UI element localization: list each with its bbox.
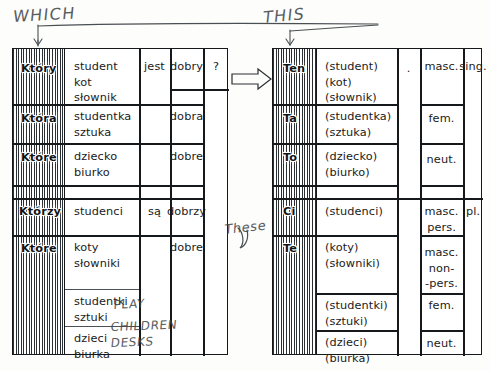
pronoun-te: Te — [282, 242, 298, 256]
worksheet-page: Który Która Które Którzy Które student k… — [0, 0, 490, 371]
row-rule-4 — [13, 198, 203, 200]
pronoun-ktora: Która — [20, 112, 58, 126]
noun-cell-6: (studentki) (sztuki) — [325, 298, 395, 329]
column-rule-gender-num — [463, 49, 465, 356]
gender-rule-5 — [420, 235, 463, 237]
pronoun-ktore: Które — [20, 151, 58, 165]
column-rule-noun-mark — [397, 49, 399, 356]
gender-cell-6: fem. — [420, 298, 463, 314]
adjective-cell-1: dobry — [170, 59, 203, 75]
annotation-desks: DESKS — [110, 334, 154, 350]
adj-rule-d — [170, 235, 203, 237]
pronoun-ta: Ta — [282, 112, 298, 126]
column-rule-adj-mark — [203, 49, 205, 356]
demonstrative-pronoun-table: Ten Ta To Ci Te (student) (kot) (słownik… — [272, 48, 482, 355]
adjective-cell-2: dobra — [170, 109, 203, 125]
adj-rule-b — [170, 143, 203, 145]
row-rule-3 — [273, 185, 397, 187]
gender-rule-7 — [420, 330, 463, 332]
row-rule-6 — [65, 289, 139, 290]
adjective-cell-4: dobrzy — [170, 204, 203, 220]
pronoun-ktore-pl: Które — [20, 242, 58, 256]
adj-rule-c — [170, 185, 203, 187]
annotation-plays: PLAY — [113, 296, 145, 312]
number-cell-pl: pl. — [463, 204, 483, 220]
row-rule-2 — [273, 143, 397, 145]
noun-cell-1: student kot słownik — [74, 59, 138, 106]
pronoun-ci: Ci — [282, 205, 296, 219]
noun-cell-4: (studenci) — [325, 204, 395, 220]
gender-cell-3: neut. — [420, 152, 463, 168]
gender-cell-1: masc. — [420, 59, 463, 75]
gender-rule-4 — [420, 198, 463, 200]
row-rule-5 — [273, 235, 397, 237]
pointer-line-this — [286, 25, 378, 45]
gender-rule-2 — [420, 143, 463, 145]
mark-rule-a — [203, 89, 229, 91]
noun-cell-3: dziecko biurko — [74, 149, 138, 180]
annotation-children: CHILDREN — [110, 318, 178, 334]
noun-cell-4: studenci — [74, 204, 138, 220]
pronoun-ktorzy: Którzy — [18, 205, 62, 219]
number-cell-sing: sing. — [463, 59, 483, 75]
row-rule-7 — [317, 330, 397, 332]
adjective-cell-3: dobre — [170, 149, 203, 165]
gender-rule-3 — [420, 185, 463, 187]
noun-cell-5: koty słowniki — [74, 240, 138, 271]
noun-cell-2: (studentka) (sztuka) — [325, 109, 395, 140]
mark-rule-1 — [397, 198, 420, 200]
question-mark-cell: ? — [203, 59, 229, 75]
block-arrow-icon — [232, 69, 271, 89]
annotation-which: WHICH — [12, 3, 77, 26]
column-rule-verb-adj — [170, 49, 172, 356]
gender-cell-7: neut. — [420, 336, 463, 352]
period-mark-cell: . — [397, 61, 420, 77]
verb-cell-4: są — [139, 204, 170, 220]
pointer-line-which — [34, 23, 378, 46]
row-rule-6 — [317, 293, 397, 295]
gender-rule-1 — [420, 104, 463, 106]
gender-cell-5: masc. non- -pers. — [420, 245, 463, 292]
annotation-this: THIS — [262, 4, 306, 27]
pronoun-column-hatch — [273, 49, 317, 354]
noun-cell-5: (koty) (słowniki) — [325, 240, 395, 271]
gender-rule-6 — [420, 293, 463, 295]
noun-cell-1: (student) (kot) (słownik) — [325, 59, 395, 106]
pronoun-ten: Ten — [282, 62, 306, 76]
pronoun-column-hatch — [13, 49, 65, 354]
pronoun-to: To — [282, 151, 298, 165]
number-rule-1 — [463, 198, 483, 200]
noun-cell-7: (dzieci) (biurka) — [325, 335, 395, 366]
annotation-these: These — [224, 217, 267, 237]
adjective-cell-5: dobre — [170, 240, 203, 256]
row-rule-4 — [273, 198, 397, 200]
adj-rule-a — [170, 89, 203, 91]
gender-cell-2: fem. — [420, 111, 463, 127]
noun-cell-2: studentka sztuka — [74, 109, 138, 140]
pronoun-ktory: Który — [20, 62, 57, 76]
verb-cell-1: jest — [139, 59, 170, 75]
noun-cell-3: (dziecko) (biurko) — [325, 149, 395, 180]
gender-cell-4: masc. pers. — [420, 204, 463, 235]
